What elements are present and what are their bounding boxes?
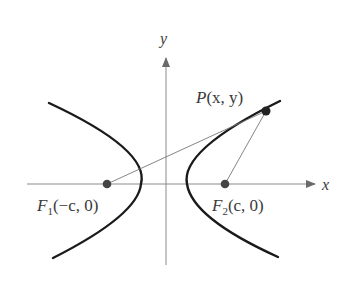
right-branch <box>187 101 280 257</box>
point-p-label: P(x, y) <box>195 88 243 107</box>
point-p-dot <box>262 107 271 116</box>
hyperbola-diagram: y x P(x, y) F1(−c, 0) F2(c, 0) <box>0 0 353 289</box>
x-axis-label: x <box>321 176 329 193</box>
focus-f1-dot <box>103 180 112 189</box>
focus-f2-dot <box>221 180 230 189</box>
left-branch <box>49 103 142 258</box>
y-axis-label: y <box>158 30 168 48</box>
focus-f2-label: F2(c, 0) <box>211 196 264 217</box>
focus-f1-label: F1(−c, 0) <box>36 196 98 217</box>
segment-f2-p <box>225 111 266 184</box>
